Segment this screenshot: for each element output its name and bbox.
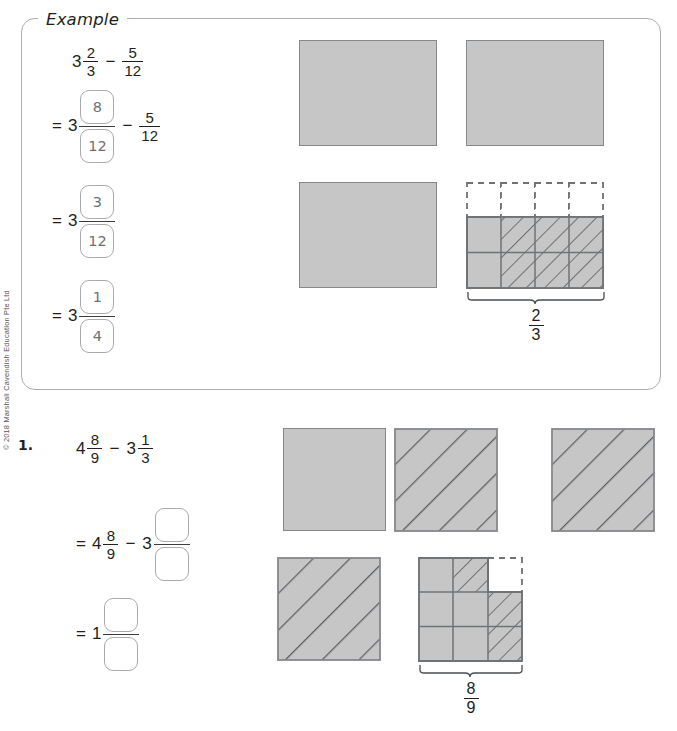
mixed-whole: 3: [68, 211, 77, 231]
example-step-2: = 3 3 12: [52, 185, 115, 258]
equals-sign: =: [52, 306, 62, 326]
answer-fraction-blank-1[interactable]: [154, 508, 190, 581]
example-step-3: = 3 1 4: [52, 280, 115, 353]
answer-fraction-8-12[interactable]: 8 12: [79, 90, 115, 163]
fraction-bar: [154, 544, 190, 546]
q1-brace: [418, 663, 524, 678]
fraction-8-9: 8 9: [87, 432, 102, 465]
question-number-1: 1.: [18, 437, 33, 453]
fraction-5-12: 5 12: [139, 110, 160, 143]
fraction-8-9-label: 8 9: [464, 681, 479, 716]
fraction-2-3-label: 2 3: [529, 308, 544, 343]
fraction-1-3: 1 3: [138, 432, 153, 465]
mixed-whole: 4: [76, 439, 85, 459]
example-whole-rect-2: [466, 40, 604, 146]
minus-operator: −: [105, 52, 115, 72]
answer-box-numerator[interactable]: 1: [80, 280, 114, 314]
q1-fraction-grid: [418, 557, 524, 663]
answer-box-numerator[interactable]: [155, 508, 189, 542]
equals-sign: =: [76, 624, 86, 644]
fraction-bar: [103, 634, 139, 636]
grid-shaded-body: [467, 217, 603, 288]
fraction-2-3: 2 3: [83, 45, 98, 78]
equals-sign: =: [52, 211, 62, 231]
answer-box-denominator[interactable]: [104, 637, 138, 671]
mixed-whole-2: 3: [142, 534, 151, 554]
minus-operator: −: [109, 439, 119, 459]
equals-sign: =: [52, 116, 62, 136]
q1-whole-square-1: [283, 428, 386, 531]
grid-blank-row: [467, 183, 603, 217]
mixed-whole-2: 3: [126, 439, 135, 459]
example-whole-rect-1: [299, 40, 437, 146]
answer-box-denominator[interactable]: [155, 547, 189, 581]
minus-operator: −: [122, 116, 132, 136]
mixed-whole: 3: [68, 116, 77, 136]
example-whole-rect-3: [299, 182, 437, 288]
example-fraction-grid: [466, 182, 606, 290]
q1-whole-square-2: [394, 428, 498, 532]
example-fraction-label: 2 3: [466, 308, 606, 343]
answer-box-denominator[interactable]: 12: [80, 129, 114, 163]
answer-box-denominator[interactable]: 12: [80, 224, 114, 258]
example-brace: [466, 290, 606, 305]
mixed-whole: 1: [92, 624, 101, 644]
mixed-whole: 3: [72, 52, 81, 72]
answer-fraction-3-12[interactable]: 3 12: [79, 185, 115, 258]
q1-whole-square-4: [277, 557, 381, 661]
answer-box-numerator[interactable]: [104, 598, 138, 632]
fraction-bar: [79, 126, 115, 128]
mixed-whole: 4: [92, 534, 101, 554]
answer-fraction-1-4[interactable]: 1 4: [79, 280, 115, 353]
q1-whole-square-3: [551, 428, 655, 532]
q1-fraction-label: 8 9: [418, 681, 524, 716]
q1-step-2: = 1: [76, 598, 139, 671]
minus-operator: −: [125, 534, 135, 554]
example-step-1: = 3 8 12 − 5 12: [52, 90, 160, 163]
fraction-8-9: 8 9: [103, 528, 118, 561]
fraction-bar: [79, 221, 115, 223]
answer-box-numerator[interactable]: 8: [80, 90, 114, 124]
q1-step-1: = 4 8 9 − 3: [76, 508, 190, 581]
q1-step-0: 4 8 9 − 3 1 3: [76, 432, 153, 465]
answer-box-numerator[interactable]: 3: [80, 185, 114, 219]
mixed-whole: 3: [68, 306, 77, 326]
copyright-notice: © 2018 Marshall Cavendish Education Pte …: [2, 290, 11, 450]
fraction-5-12: 5 12: [122, 45, 143, 78]
example-legend: Example: [38, 10, 127, 29]
fraction-bar: [79, 316, 115, 318]
answer-fraction-blank-2[interactable]: [103, 598, 139, 671]
answer-box-denominator[interactable]: 4: [80, 319, 114, 353]
example-step-0: 3 2 3 − 5 12: [72, 45, 143, 78]
grid-blank-cell: [488, 558, 522, 592]
equals-sign: =: [76, 534, 86, 554]
